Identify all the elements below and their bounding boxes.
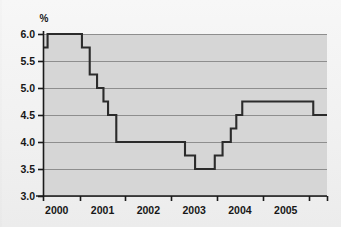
chart-figure: 3.03.54.04.55.05.56.0 200020012002200320… [0, 0, 341, 227]
y-tick-label: 6.0 [20, 28, 35, 40]
y-tick-label: 5.5 [20, 55, 35, 67]
x-tick-label: 2001 [91, 204, 115, 216]
y-tick-label: 4.0 [20, 136, 35, 148]
y-tick-label: 3.5 [20, 163, 35, 175]
y-axis-unit-label: % [40, 13, 49, 24]
y-tick-label: 4.5 [20, 109, 35, 121]
y-tick-label: 3.0 [20, 190, 35, 202]
chart-svg: 3.03.54.04.55.05.56.0 200020012002200320… [0, 0, 341, 227]
y-axis-ticks: 3.03.54.04.55.05.56.0 [20, 28, 43, 202]
x-tick-label: 2005 [274, 204, 298, 216]
x-tick-label: 2000 [45, 204, 69, 216]
x-tick-label: 2002 [137, 204, 161, 216]
x-axis-tick-labels: 200020012002200320042005 [45, 204, 298, 216]
y-tick-label: 5.0 [20, 82, 35, 94]
x-tick-label: 2003 [182, 204, 206, 216]
x-tick-label: 2004 [228, 204, 252, 216]
